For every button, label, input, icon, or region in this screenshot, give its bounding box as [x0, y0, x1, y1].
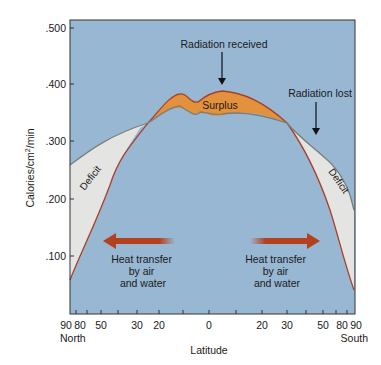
x-tick-label: 20	[256, 319, 268, 331]
x-tick-label: 20	[153, 319, 165, 331]
x-tick-label: 80	[74, 319, 86, 331]
x-tick-label: 30	[281, 319, 293, 331]
chart-figure: .500 .400 .300 .200 .100 Calories/cm2/mi…	[0, 0, 381, 365]
x-axis-label: Latitude	[190, 344, 228, 356]
y-tick-label: .500	[46, 22, 67, 34]
x-tick-label: 90	[60, 319, 72, 331]
radiation-lost-label: Radiation lost	[288, 87, 352, 99]
north-label: North	[60, 332, 86, 344]
radiation-received-label: Radiation received	[181, 38, 268, 50]
x-tick-label: 0	[206, 319, 212, 331]
surplus-label: Surplus	[202, 99, 238, 111]
x-tick-label: 50	[317, 319, 329, 331]
y-tick-label: .100	[46, 250, 67, 262]
y-tick-label: .200	[46, 193, 67, 205]
x-tick-label: 90	[350, 319, 362, 331]
y-tick-label: .300	[46, 135, 67, 147]
x-tick-label: 50	[95, 319, 107, 331]
x-tick-label: 80	[336, 319, 348, 331]
y-axis-label: Calories/cm2/min	[24, 128, 36, 207]
south-label: South	[341, 332, 369, 344]
y-tick-label: .400	[46, 78, 67, 90]
x-tick-label: 30	[131, 319, 143, 331]
